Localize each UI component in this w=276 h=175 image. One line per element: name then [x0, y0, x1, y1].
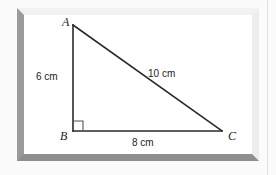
vertex-label-b: B: [60, 130, 67, 142]
vertex-label-c: C: [228, 130, 236, 142]
vertex-label-a: A: [62, 16, 69, 28]
right-angle-marker-icon: [73, 121, 83, 131]
length-label-ac: 10 cm: [148, 69, 175, 79]
triangle-drawing: [0, 0, 276, 175]
length-label-bc: 8 cm: [132, 138, 154, 148]
figure-canvas: A B C 6 cm 10 cm 8 cm: [0, 0, 276, 175]
length-label-ab: 6 cm: [36, 72, 58, 82]
